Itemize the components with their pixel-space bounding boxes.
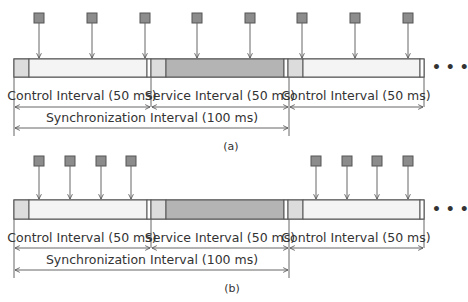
packet-square-icon (34, 13, 44, 23)
diagram-a: • • • Control Interval (50 ms) Service I… (7, 13, 468, 153)
continuation-dots: • • • (432, 201, 468, 217)
timing-diagram: • • • Control Interval (50 ms) Service I… (0, 0, 468, 302)
packets-b (34, 156, 413, 199)
packet-square-icon (311, 156, 321, 166)
sync-interval-label: Synchronization Interval (100 ms) (46, 252, 258, 267)
guard-slot (151, 200, 166, 219)
packet (403, 156, 413, 199)
packet-square-icon (342, 156, 352, 166)
packet (245, 13, 255, 58)
interval-label: Control Interval (50 ms) (281, 230, 430, 245)
interval-label: Control Interval (50 ms) (281, 88, 430, 103)
packets-a (34, 13, 413, 58)
control-slot (303, 200, 420, 219)
sync-interval-label: Synchronization Interval (100 ms) (46, 110, 258, 125)
packet (34, 156, 44, 199)
timeline-bar-a (14, 59, 424, 77)
packet (34, 13, 44, 58)
continuation-dots: • • • (432, 59, 468, 75)
packet-square-icon (372, 156, 382, 166)
packet (96, 156, 106, 199)
service-slot (166, 200, 284, 219)
guard-slot (288, 59, 303, 77)
guard-slot (288, 200, 303, 219)
control-slot (29, 200, 147, 219)
guard-slot (14, 200, 29, 219)
guard-slot (151, 59, 166, 77)
control-slot (303, 59, 420, 77)
packet-square-icon (87, 13, 97, 23)
packet (350, 13, 360, 58)
packet (372, 156, 382, 199)
interval-label: Control Interval (50 ms) (7, 230, 156, 245)
guard-slot (14, 59, 29, 77)
packet (140, 13, 150, 58)
packet (126, 156, 136, 199)
interval-label: Control Interval (50 ms) (7, 88, 156, 103)
diagram-b: • • • Control Interval (50 ms) Service I… (7, 156, 468, 295)
packet-square-icon (297, 13, 307, 23)
packet (403, 13, 413, 58)
packet-square-icon (65, 156, 75, 166)
packet-square-icon (126, 156, 136, 166)
packet-square-icon (245, 13, 255, 23)
timeline-bar-b (14, 200, 424, 219)
interval-label: Service Interval (50 ms) (145, 88, 295, 103)
packet (342, 156, 352, 199)
packet (311, 156, 321, 199)
packet-square-icon (34, 156, 44, 166)
packet (65, 156, 75, 199)
service-slot (166, 59, 284, 77)
packet (192, 13, 202, 58)
caption-b: (b) (224, 282, 240, 295)
packet-square-icon (403, 156, 413, 166)
packet (87, 13, 97, 58)
packet-square-icon (403, 13, 413, 23)
packet-square-icon (350, 13, 360, 23)
packet-square-icon (96, 156, 106, 166)
control-slot (29, 59, 147, 77)
caption-a: (a) (223, 140, 238, 153)
packet-square-icon (192, 13, 202, 23)
packet-square-icon (140, 13, 150, 23)
packet (297, 13, 307, 58)
interval-label: Service Interval (50 ms) (145, 230, 295, 245)
